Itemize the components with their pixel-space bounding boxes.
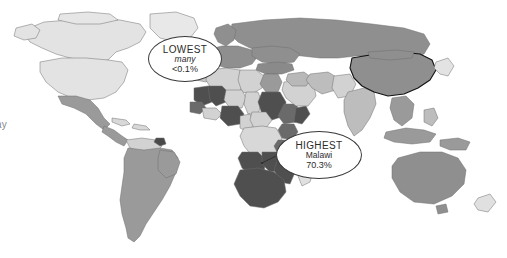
clipped-axis-label: ay (0, 119, 7, 130)
callout-lowest: LOWEST many <0.1% (148, 36, 222, 82)
callout-highest: HIGHEST Malawi 70.3% (276, 131, 362, 179)
world-map-figure: ay LOWEST many <0.1% HIGHEST Malawi 70.3… (0, 0, 507, 258)
callout-highest-value: 70.3% (306, 160, 332, 170)
region-tasmania (436, 204, 448, 214)
callout-lowest-value: <0.1% (172, 64, 198, 74)
region-canada-islands (58, 12, 118, 24)
highest-leader-endpoint (261, 162, 263, 164)
region-mongolia (368, 50, 414, 60)
callout-lowest-subject: many (175, 55, 196, 65)
world-choropleth-map (0, 0, 507, 258)
callout-highest-subject: Malawi (306, 151, 332, 161)
